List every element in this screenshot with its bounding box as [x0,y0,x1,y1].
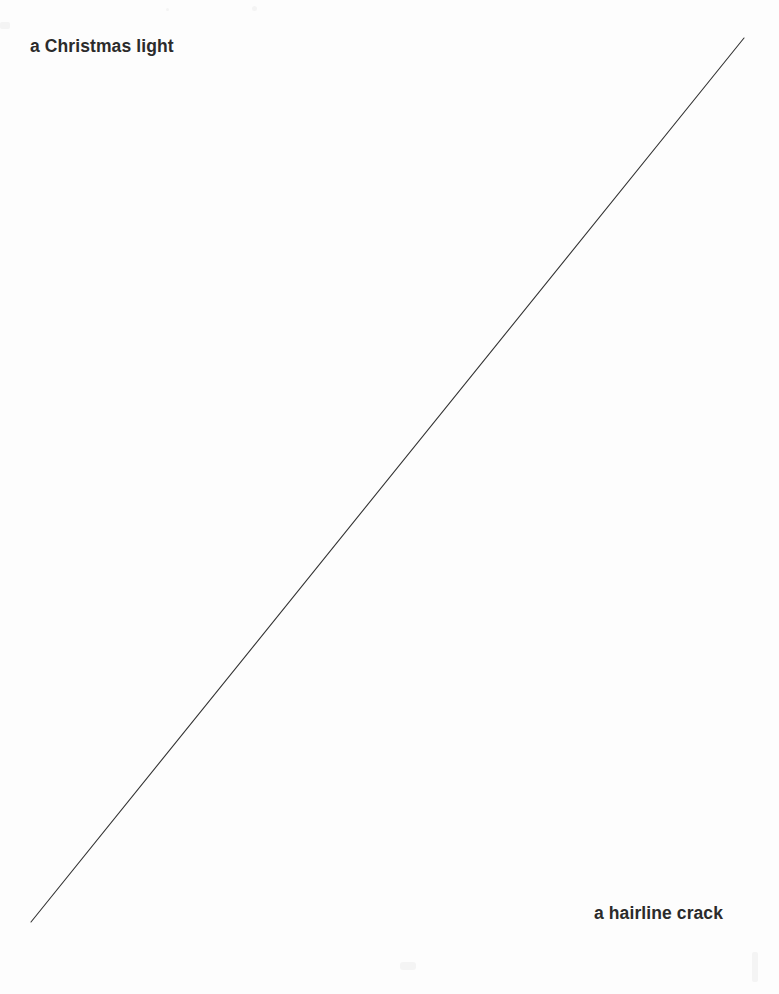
diagonal-line [31,38,744,922]
caption-bottom-right: a hairline crack [594,905,723,923]
paper-speck-artifact [400,962,416,970]
paper-edge-artifact [0,22,10,29]
caption-top-left: a Christmas light [30,38,174,56]
diagram-canvas: a Christmas light a hairline crack [0,0,779,994]
paper-edge-artifact [752,952,758,982]
paper-speck-artifact [166,8,169,11]
paper-speck-artifact [252,6,257,11]
diagonal-line-layer [0,0,779,994]
